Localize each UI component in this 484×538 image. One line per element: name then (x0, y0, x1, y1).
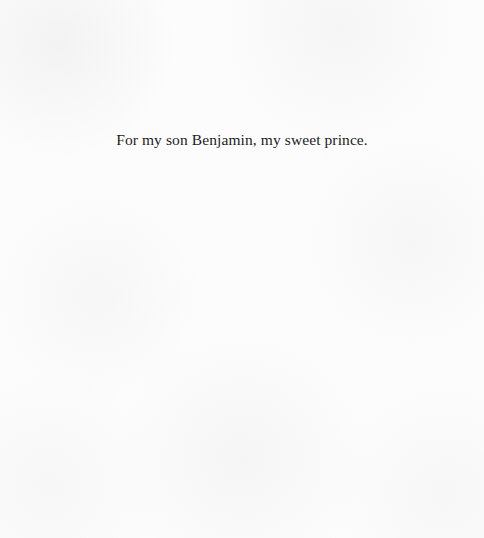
dedication-text: For my son Benjamin, my sweet prince. (0, 130, 484, 150)
book-page: For my son Benjamin, my sweet prince. (0, 0, 484, 538)
